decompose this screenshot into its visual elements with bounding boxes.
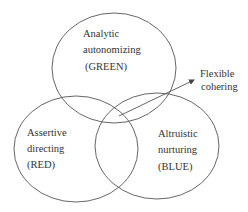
red-label-line2: directing: [27, 143, 65, 154]
callout-label-line2: cohering: [201, 81, 238, 92]
venn-diagram: Analytic autonomizing (GREEN) Assertive …: [0, 0, 248, 212]
red-label-line3: (RED): [27, 159, 55, 171]
green-label-line3: (GREEN): [85, 61, 127, 73]
callout-label: Flexible cohering: [200, 68, 238, 92]
green-label-line1: Analytic: [83, 28, 119, 39]
green-label: Analytic autonomizing (GREEN): [83, 28, 141, 73]
green-label-line2: autonomizing: [83, 44, 141, 55]
blue-circle: [95, 93, 219, 199]
blue-label-line2: nurturing: [158, 144, 198, 155]
blue-label: Altruistic nurturing (BLUE): [158, 128, 198, 173]
red-label-line1: Assertive: [27, 127, 67, 138]
red-label: Assertive directing (RED): [27, 127, 67, 171]
blue-label-line3: (BLUE): [158, 161, 193, 173]
callout-label-line1: Flexible: [200, 68, 235, 79]
blue-label-line1: Altruistic: [158, 128, 198, 139]
